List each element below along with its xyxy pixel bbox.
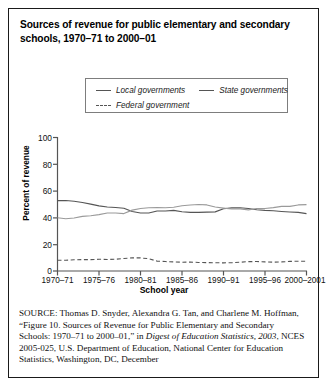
- source-label: SOURCE:: [19, 308, 57, 318]
- x-tick-label: 1985–86: [160, 276, 204, 285]
- x-tick-label: 1975–76: [77, 276, 121, 285]
- x-tick-label: 1970–71: [36, 276, 80, 285]
- x-tick-label: 1990–91: [202, 276, 246, 285]
- x-axis-title: School year: [0, 285, 328, 295]
- series-line-federal-government: [58, 258, 307, 263]
- x-tick-label: 2000–2001: [283, 276, 327, 285]
- source-italic-title: Digest of Education Statistics, 2003: [146, 331, 277, 341]
- x-tick-label: 1980–81: [119, 276, 163, 285]
- chart-plot-area: Percent of revenue 100 80 60 40 20 0: [0, 0, 328, 300]
- x-tick-label: 1995–96: [243, 276, 287, 285]
- chart-canvas: [0, 0, 328, 300]
- series-group: [58, 201, 307, 263]
- series-line-local-governments: [58, 201, 307, 214]
- source-note: SOURCE: Thomas D. Snyder, Alexandra G. T…: [19, 308, 307, 366]
